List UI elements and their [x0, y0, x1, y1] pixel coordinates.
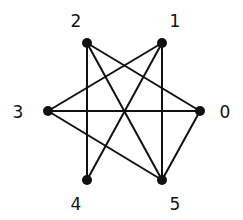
- node-3: [43, 106, 53, 116]
- node-label-0: 0: [220, 102, 231, 122]
- graph-diagram: 012345: [0, 0, 243, 220]
- node-4: [82, 175, 92, 185]
- node-label-3: 3: [13, 102, 24, 122]
- node-label-4: 4: [71, 194, 82, 214]
- edge-3-5: [48, 111, 162, 180]
- node-label-2: 2: [71, 11, 82, 31]
- edge-0-5: [162, 111, 200, 180]
- node-1: [157, 38, 167, 48]
- node-0: [195, 106, 205, 116]
- node-label-1: 1: [170, 11, 181, 31]
- edges: [48, 43, 200, 180]
- node-label-5: 5: [170, 194, 181, 214]
- node-5: [157, 175, 167, 185]
- node-2: [82, 38, 92, 48]
